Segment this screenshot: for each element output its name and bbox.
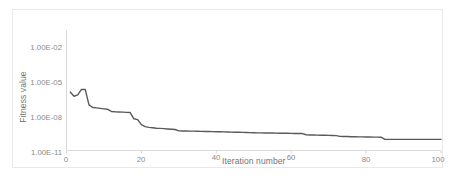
plot-area: [0, 0, 457, 179]
fitness-curve: [70, 89, 441, 139]
figure-container: Fitness value 1.00E-02 1.00E-05 1.00E-08…: [0, 0, 457, 179]
